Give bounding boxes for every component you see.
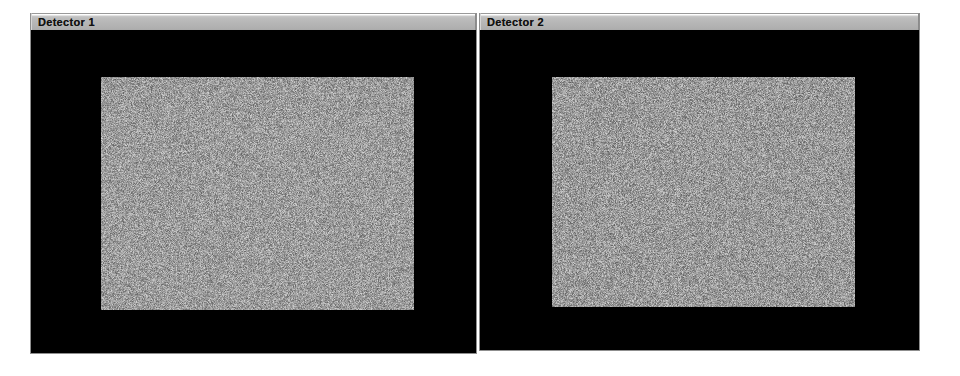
detector-1-noise-image[interactable]: [101, 77, 414, 310]
titlebar-label-detector-2: Detector 2: [487, 17, 544, 28]
detector-1-noise-canvas: [101, 77, 414, 310]
panel-inner-1: Detector 1: [31, 13, 476, 353]
detector-2-canvas[interactable]: [480, 30, 919, 350]
titlebar-label-detector-1: Detector 1: [38, 17, 95, 28]
titlebar-detector-2[interactable]: Detector 2: [480, 13, 919, 30]
detector-panel-2[interactable]: Detector 2: [479, 13, 920, 351]
detector-2-noise-canvas: [552, 77, 855, 307]
titlebar-detector-1[interactable]: Detector 1: [31, 13, 476, 30]
detector-panel-1[interactable]: Detector 1: [30, 13, 477, 354]
detector-1-canvas[interactable]: [31, 30, 476, 353]
panel-inner-2: Detector 2: [480, 13, 919, 350]
detector-2-noise-image[interactable]: [552, 77, 855, 307]
detector-viewer-root: Detector 1 Detector 2: [0, 0, 960, 376]
